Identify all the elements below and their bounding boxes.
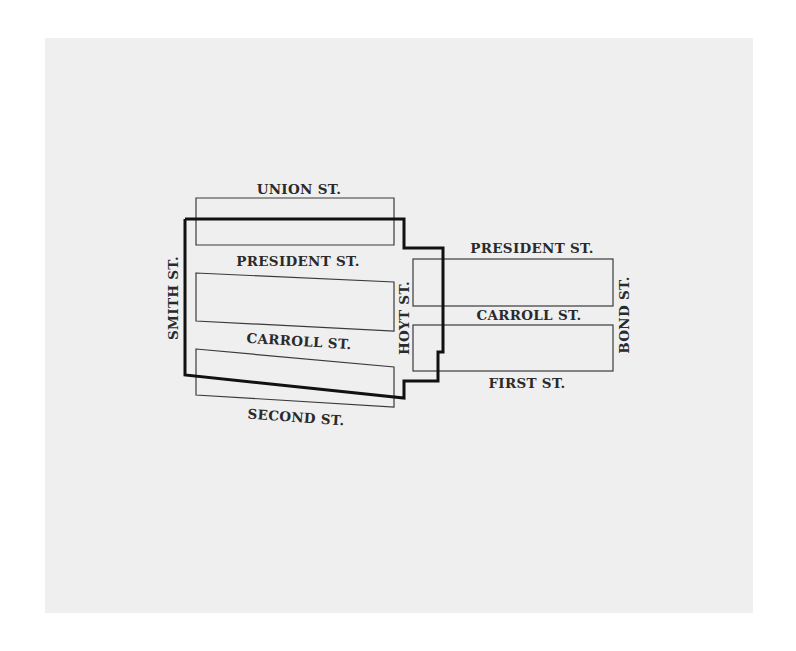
street-label-smith: SMITH ST. <box>165 256 181 340</box>
street-label-bond: BOND ST. <box>616 276 632 353</box>
street-label-hoyt: HOYT ST. <box>396 281 412 355</box>
street-label-carroll-west: CARROLL ST. <box>246 330 352 352</box>
street-map: UNION ST. PRESIDENT ST. CARROLL ST. SECO… <box>0 0 796 651</box>
street-label-first: FIRST ST. <box>488 375 565 391</box>
street-label-president-east: PRESIDENT ST. <box>470 240 593 256</box>
street-label-carroll-east: CARROLL ST. <box>476 307 581 323</box>
street-label-second: SECOND ST. <box>247 406 345 429</box>
block-president-carroll-west <box>196 273 394 331</box>
street-label-union: UNION ST. <box>257 181 342 197</box>
street-label-president-west: PRESIDENT ST. <box>236 253 359 269</box>
block-union-president-west <box>196 198 394 245</box>
